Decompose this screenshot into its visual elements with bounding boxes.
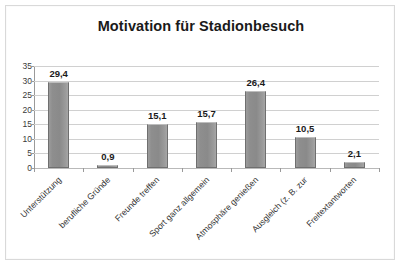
gridline bbox=[34, 81, 379, 82]
y-tick-label: 5 bbox=[8, 149, 32, 158]
bar-value-label: 15,1 bbox=[133, 111, 181, 121]
y-tick-mark bbox=[31, 81, 34, 82]
chart-frame: Motivation für Stadionbesuch 05101520253… bbox=[5, 5, 395, 260]
x-tick-mark bbox=[280, 168, 281, 172]
bar-value-label: 29,4 bbox=[35, 69, 83, 79]
y-tick-mark bbox=[31, 168, 34, 169]
y-tick-mark bbox=[31, 95, 34, 96]
x-tick-mark bbox=[231, 168, 232, 172]
x-tick-mark bbox=[182, 168, 183, 172]
y-tick-label: 30 bbox=[8, 77, 32, 86]
bar-value-label: 15,7 bbox=[183, 109, 231, 119]
y-tick-mark bbox=[31, 66, 34, 67]
y-tick-mark bbox=[31, 153, 34, 154]
y-tick-mark bbox=[31, 110, 34, 111]
gridline bbox=[34, 95, 379, 96]
y-tick-label: 10 bbox=[8, 135, 32, 144]
bar[interactable] bbox=[295, 137, 316, 168]
y-tick-label: 0 bbox=[8, 164, 32, 173]
y-tick-mark bbox=[31, 124, 34, 125]
x-tick-mark bbox=[83, 168, 84, 172]
bar[interactable] bbox=[147, 124, 168, 168]
gridline bbox=[34, 168, 379, 169]
x-tick-mark bbox=[133, 168, 134, 172]
y-tick-mark bbox=[31, 139, 34, 140]
gridline bbox=[34, 66, 379, 67]
y-tick-label: 20 bbox=[8, 106, 32, 115]
plot-area: 05101520253035 29,40,915,115,726,410,52,… bbox=[34, 66, 379, 168]
bar[interactable] bbox=[48, 82, 69, 168]
y-tick-label: 25 bbox=[8, 91, 32, 100]
bar[interactable] bbox=[344, 162, 365, 168]
bar[interactable] bbox=[97, 165, 118, 168]
y-tick-label: 15 bbox=[8, 120, 32, 129]
x-tick-mark bbox=[379, 168, 380, 172]
bar[interactable] bbox=[245, 91, 266, 168]
bar-value-label: 10,5 bbox=[281, 124, 329, 134]
x-tick-mark bbox=[34, 168, 35, 172]
bar-value-label: 26,4 bbox=[232, 78, 280, 88]
bar[interactable] bbox=[196, 122, 217, 168]
y-tick-label: 35 bbox=[8, 62, 32, 71]
bar-value-label: 0,9 bbox=[84, 152, 132, 162]
x-tick-mark bbox=[330, 168, 331, 172]
bar-value-label: 2,1 bbox=[330, 149, 378, 159]
chart-title: Motivation für Stadionbesuch bbox=[6, 18, 396, 34]
